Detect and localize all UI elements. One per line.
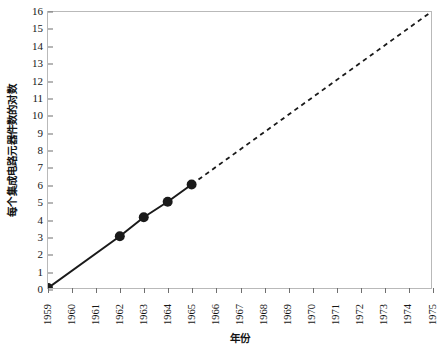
y-tick-mark — [48, 272, 53, 273]
y-tick-label: 4 — [38, 214, 44, 226]
y-tick-mark — [48, 81, 53, 82]
x-tick-mark — [168, 288, 169, 293]
x-tick-label: 1959 — [40, 295, 54, 333]
x-tick-mark — [289, 288, 290, 293]
x-tick-label-text: 1971 — [330, 304, 341, 325]
x-tick-label: 1970 — [305, 295, 319, 333]
x-tick-mark — [313, 288, 314, 293]
y-tick-mark — [48, 237, 53, 238]
x-tick-label: 1966 — [208, 295, 222, 333]
series-line-extrapolation — [192, 12, 431, 185]
x-tick-mark — [433, 288, 434, 293]
x-tick-label-text: 1964 — [162, 304, 173, 325]
x-tick-label-text: 1972 — [354, 304, 365, 325]
x-axis-tick-labels: 1959196019611962196319641965196619671968… — [47, 295, 432, 333]
y-tick-label: 10 — [32, 109, 43, 121]
x-tick-label: 1961 — [88, 295, 102, 333]
x-tick-mark — [241, 288, 242, 293]
y-tick-label: 11 — [32, 92, 43, 104]
x-tick-label-text: 1974 — [402, 304, 413, 325]
x-tick-mark — [216, 288, 217, 293]
x-tick-label-text: 1967 — [234, 304, 245, 325]
x-tick-label-text: 1965 — [186, 304, 197, 325]
x-tick-mark — [337, 288, 338, 293]
x-tick-label: 1964 — [160, 295, 174, 333]
y-tick-mark — [48, 29, 53, 30]
x-tick-label: 1972 — [353, 295, 367, 333]
x-tick-label-text: 1975 — [427, 304, 438, 325]
y-tick-mark — [48, 133, 53, 134]
data-point — [115, 231, 125, 241]
x-tick-label-text: 1961 — [90, 304, 101, 325]
x-tick-label-text: 1966 — [210, 304, 221, 325]
y-tick-label: 16 — [32, 5, 43, 17]
y-tick-mark — [48, 46, 53, 47]
x-tick-label: 1969 — [281, 295, 295, 333]
x-tick-label-text: 1960 — [66, 304, 77, 325]
data-point — [139, 212, 149, 222]
plot-area — [47, 11, 432, 289]
y-tick-mark — [48, 98, 53, 99]
y-axis-tick-labels: 012345678910111213141516 — [22, 11, 46, 289]
y-tick-mark — [48, 168, 53, 169]
x-tick-label-text: 1959 — [42, 304, 53, 325]
y-tick-mark — [48, 116, 53, 117]
x-tick-mark — [72, 288, 73, 293]
moores-law-chart: 每个集成电路元器件数的对数 012345678910111213141516 1… — [0, 0, 438, 350]
x-tick-mark — [144, 288, 145, 293]
y-tick-label: 7 — [38, 161, 44, 173]
x-tick-mark — [120, 288, 121, 293]
y-axis-title-text: 每个集成电路元器件数的对数 — [4, 84, 19, 217]
y-tick-label: 14 — [32, 40, 43, 52]
x-tick-label: 1963 — [136, 295, 150, 333]
x-tick-label: 1975 — [425, 295, 438, 333]
y-tick-label: 0 — [38, 283, 44, 295]
data-point — [187, 180, 197, 190]
x-tick-label: 1971 — [329, 295, 343, 333]
x-tick-label: 1962 — [112, 295, 126, 333]
x-tick-label: 1968 — [257, 295, 271, 333]
x-tick-mark — [48, 288, 49, 293]
y-tick-label: 9 — [38, 127, 44, 139]
x-tick-label-text: 1963 — [138, 304, 149, 325]
y-tick-label: 6 — [38, 179, 44, 191]
y-tick-label: 8 — [38, 144, 44, 156]
y-tick-label: 12 — [32, 75, 43, 87]
x-tick-label-text: 1962 — [114, 304, 125, 325]
x-tick-mark — [361, 288, 362, 293]
x-tick-mark — [265, 288, 266, 293]
plot-svg — [48, 12, 431, 288]
y-tick-mark — [48, 12, 53, 13]
y-tick-label: 3 — [38, 231, 44, 243]
x-tick-label: 1973 — [377, 295, 391, 333]
y-tick-label: 1 — [38, 266, 44, 278]
x-tick-mark — [96, 288, 97, 293]
y-tick-mark — [48, 185, 53, 186]
y-tick-mark — [48, 203, 53, 204]
x-axis-title: 年份 — [47, 330, 432, 345]
x-tick-label: 1974 — [401, 295, 415, 333]
y-tick-label: 5 — [38, 196, 44, 208]
x-tick-mark — [192, 288, 193, 293]
y-tick-label: 2 — [38, 248, 44, 260]
x-tick-label: 1965 — [184, 295, 198, 333]
data-point — [163, 197, 173, 207]
y-tick-mark — [48, 255, 53, 256]
y-tick-label: 13 — [32, 57, 43, 69]
x-tick-mark — [385, 288, 386, 293]
x-tick-label-text: 1970 — [306, 304, 317, 325]
y-axis-title: 每个集成电路元器件数的对数 — [0, 0, 22, 300]
x-tick-label-text: 1973 — [378, 304, 389, 325]
y-tick-mark — [48, 64, 53, 65]
x-tick-mark — [409, 288, 410, 293]
x-tick-label-text: 1969 — [282, 304, 293, 325]
y-tick-label: 15 — [32, 22, 43, 34]
x-tick-label: 1960 — [64, 295, 78, 333]
x-tick-label: 1967 — [233, 295, 247, 333]
y-tick-mark — [48, 151, 53, 152]
y-tick-mark — [48, 220, 53, 221]
x-tick-label-text: 1968 — [258, 304, 269, 325]
